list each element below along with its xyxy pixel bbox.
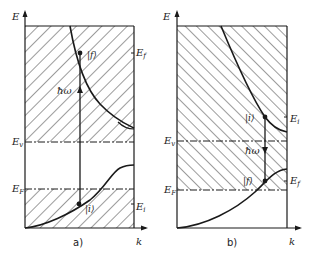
panel-caption: b) [227,237,237,248]
initial-state-dot [77,202,82,207]
arrow-right-icon [295,226,302,231]
k-axis-label: k [289,236,295,247]
initial-energy-label: Ei [135,201,146,214]
final-state-dot [263,179,268,184]
ef-label: EF [163,184,177,197]
panel-caption: a) [73,237,83,248]
energy-axis-label: E [162,11,171,22]
initial-energy-label: Ei [289,113,300,126]
ev-label: Ev [11,136,23,149]
k-axis-label: k [136,236,142,247]
band-diagram-figure: E k Ev EF |f⟩ |i⟩ Ef Ei ħω a) [0,0,316,257]
final-state-label: |f⟩ [243,176,253,187]
final-state-label: |f⟩ [87,50,97,61]
arrow-right-icon [141,226,148,231]
final-state-dot [78,51,83,56]
arrow-up-icon [23,10,28,17]
energy-axis-label: E [11,11,20,22]
panel-a: E k Ev EF |f⟩ |i⟩ Ef Ei ħω a) [11,10,148,248]
photon-energy-label: ħω [57,85,72,96]
ev-label: Ev [163,135,175,148]
final-energy-label: Ef [289,175,301,188]
initial-state-label: |i⟩ [245,113,254,124]
photon-energy-label: ħω [245,145,260,156]
initial-state-label: |i⟩ [85,204,94,215]
ef-label: EF [11,183,25,196]
panel-b: E k Ev EF |i⟩ |f⟩ Ei Ef ħω b) [162,10,302,248]
final-energy-label: Ef [135,47,147,60]
initial-state-dot [263,115,268,120]
arrow-up-icon [175,10,180,17]
